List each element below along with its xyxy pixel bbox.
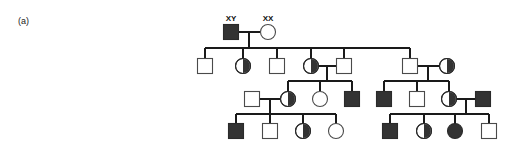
pedigree-symbol-male-unaffected[interactable] [270,59,285,74]
pedigree-chart: XYXX [0,0,515,150]
pedigree-symbol-male-affected[interactable] [224,25,239,40]
pedigree-symbol-male-affected[interactable] [229,124,244,139]
pedigree-symbol-female-carrier[interactable] [440,59,455,74]
pedigree-symbol-male-unaffected[interactable] [337,59,352,74]
pedigree-symbol-female-carrier[interactable] [442,92,457,107]
g1-mother-genotype: XX [263,14,274,23]
pedigree-symbol-male-unaffected[interactable] [403,59,418,74]
g1-father-genotype: XY [226,14,237,23]
pedigree-symbol-female-carrier[interactable] [236,59,251,74]
pedigree-symbol-male-affected[interactable] [476,92,491,107]
pedigree-symbol-female-carrier[interactable] [304,59,319,74]
pedigree-symbol-male-unaffected[interactable] [482,124,497,139]
pedigree-symbol-male-unaffected[interactable] [410,92,425,107]
pedigree-symbol-female-unaffected[interactable] [261,25,276,40]
pedigree-symbol-male-affected[interactable] [383,124,398,139]
pedigree-symbol-female-carrier[interactable] [296,124,311,139]
pedigree-symbol-female-unaffected[interactable] [313,92,328,107]
pedigree-symbol-male-affected[interactable] [345,92,360,107]
pedigree-symbol-male-unaffected[interactable] [198,59,213,74]
pedigree-symbol-male-affected[interactable] [377,92,392,107]
pedigree-symbol-female-unaffected[interactable] [329,124,344,139]
pedigree-symbol-male-unaffected[interactable] [245,92,260,107]
genotype-labels-layer: XYXX [226,14,274,23]
pedigree-symbol-female-carrier[interactable] [281,92,296,107]
pedigree-symbol-male-unaffected[interactable] [263,124,278,139]
pedigree-symbol-female-carrier[interactable] [417,124,432,139]
pedigree-symbol-female-affected[interactable] [448,124,463,139]
pedigree-figure: (a) XYXX [0,0,515,150]
